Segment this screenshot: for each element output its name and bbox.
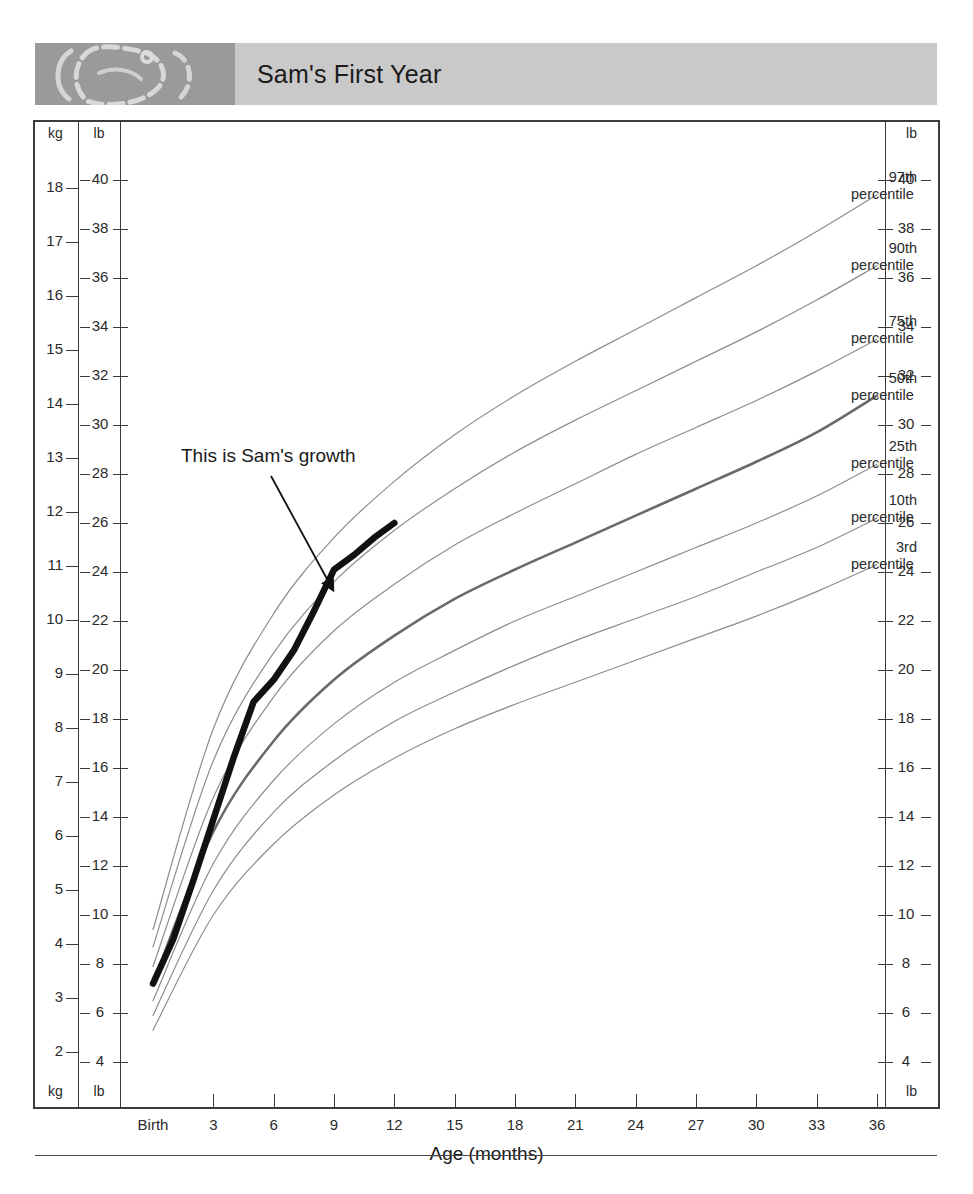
lb-tick-mark-right-outer bbox=[921, 964, 931, 965]
lb-tick-label-right: 22 bbox=[893, 611, 919, 628]
kg-tick-label: 10 bbox=[37, 610, 63, 627]
kg-tick-label: 14 bbox=[37, 394, 63, 411]
x-tick-mark bbox=[274, 1094, 275, 1108]
lb-tick-label: 20 bbox=[88, 660, 112, 677]
frame-bottom bbox=[33, 1107, 940, 1109]
left-lb-axis-footer: lb bbox=[78, 1083, 120, 1099]
lb-tick-label: 32 bbox=[88, 366, 112, 383]
percentile-curve bbox=[153, 339, 877, 966]
lb-tick-label-right: 18 bbox=[893, 709, 919, 726]
lb-tick-mark-right-outer bbox=[921, 474, 931, 475]
lb-tick-label: 10 bbox=[88, 905, 112, 922]
lb-tick-label: 34 bbox=[88, 317, 112, 334]
kg-tick-label: 15 bbox=[37, 340, 63, 357]
kg-tick-label: 2 bbox=[37, 1042, 63, 1059]
x-tick-mark bbox=[817, 1094, 818, 1108]
kg-tick-mark bbox=[66, 728, 78, 729]
lb-tick-label-right: 6 bbox=[893, 1003, 919, 1020]
lb-tick-label-right: 10 bbox=[893, 905, 919, 922]
percentile-word: percentile bbox=[851, 186, 941, 203]
percentile-word: percentile bbox=[851, 455, 941, 472]
kg-tick-mark bbox=[66, 620, 78, 621]
left-lb-axis-header: lb bbox=[78, 125, 120, 141]
page-title: Sam's First Year bbox=[257, 43, 441, 105]
x-tick-mark bbox=[213, 1094, 214, 1108]
kg-tick-mark bbox=[66, 1052, 78, 1053]
kg-tick-mark bbox=[66, 188, 78, 189]
left-kg-axis-footer: kg bbox=[33, 1083, 78, 1099]
kg-tick-mark bbox=[66, 296, 78, 297]
kg-tick-label: 17 bbox=[37, 232, 63, 249]
lb-tick-label: 22 bbox=[88, 611, 112, 628]
percentile-word: percentile bbox=[851, 257, 941, 274]
kg-tick-mark bbox=[66, 512, 78, 513]
lb-tick-label: 12 bbox=[88, 856, 112, 873]
right-lb-axis-footer: lb bbox=[885, 1083, 938, 1099]
lb-tick-mark-right-outer bbox=[921, 1013, 931, 1014]
kg-tick-mark bbox=[66, 944, 78, 945]
percentile-rank: 3rd bbox=[851, 539, 917, 556]
lb-tick-label-right: 4 bbox=[893, 1052, 919, 1069]
kg-tick-mark bbox=[66, 782, 78, 783]
growth-chart: kg lb lb kg lb lb 1817161514131211109876… bbox=[33, 120, 940, 1109]
kg-tick-mark bbox=[66, 458, 78, 459]
kg-tick-label: 9 bbox=[37, 664, 63, 681]
percentile-curve bbox=[153, 195, 877, 930]
lb-tick-mark-right-outer bbox=[921, 229, 931, 230]
plot-area bbox=[120, 120, 885, 1080]
kg-tick-mark bbox=[66, 242, 78, 243]
lb-tick-mark-right-outer bbox=[921, 866, 931, 867]
x-tick-mark bbox=[696, 1094, 697, 1108]
kg-tick-mark bbox=[66, 998, 78, 999]
percentile-label: 50thpercentile bbox=[851, 370, 941, 404]
percentile-curve bbox=[153, 565, 877, 1031]
percentile-rank: 97th bbox=[851, 169, 917, 186]
x-tick-mark bbox=[515, 1094, 516, 1108]
lb-tick-mark-right-outer bbox=[921, 719, 931, 720]
lb-tick-mark-right-outer bbox=[921, 1062, 931, 1063]
lb-tick-mark-right-outer bbox=[921, 278, 931, 279]
lb-tick-label: 36 bbox=[88, 268, 112, 285]
kg-tick-mark bbox=[66, 350, 78, 351]
banner-decorative-image bbox=[35, 43, 235, 105]
lb-tick-mark-right-outer bbox=[921, 670, 931, 671]
lb-tick-label: 40 bbox=[88, 170, 112, 187]
lb-tick-label-right: 8 bbox=[893, 954, 919, 971]
lb-tick-mark-right-outer bbox=[921, 621, 931, 622]
percentile-rank: 10th bbox=[851, 492, 917, 509]
kg-tick-label: 5 bbox=[37, 880, 63, 897]
right-lb-axis-header: lb bbox=[885, 125, 938, 141]
page-header-banner: Sam's First Year bbox=[35, 43, 937, 105]
percentile-rank: 50th bbox=[851, 370, 917, 387]
kg-tick-label: 8 bbox=[37, 718, 63, 735]
lb-tick-label-right: 38 bbox=[893, 219, 919, 236]
curves-svg bbox=[120, 120, 885, 1080]
percentile-word: percentile bbox=[851, 387, 941, 404]
percentile-label: 25thpercentile bbox=[851, 438, 941, 472]
percentile-label: 97thpercentile bbox=[851, 169, 941, 203]
kg-tick-label: 6 bbox=[37, 826, 63, 843]
kg-tick-label: 3 bbox=[37, 988, 63, 1005]
kg-tick-mark bbox=[66, 836, 78, 837]
lb-tick-label: 4 bbox=[88, 1052, 112, 1069]
footprint-graphic-icon bbox=[35, 43, 235, 105]
lb-tick-label: 38 bbox=[88, 219, 112, 236]
kg-tick-label: 13 bbox=[37, 448, 63, 465]
lb-tick-mark-right-outer bbox=[921, 915, 931, 916]
x-axis-title: Age (months) bbox=[33, 1143, 940, 1165]
left-kg-axis-header: kg bbox=[33, 125, 78, 141]
lb-tick-label: 26 bbox=[88, 513, 112, 530]
percentile-word: percentile bbox=[851, 556, 941, 573]
kg-tick-label: 16 bbox=[37, 286, 63, 303]
percentile-word: percentile bbox=[851, 509, 941, 526]
lb-tick-label-right: 14 bbox=[893, 807, 919, 824]
annotation-arrow-icon bbox=[263, 468, 393, 608]
kg-tick-mark bbox=[66, 674, 78, 675]
kg-tick-label: 4 bbox=[37, 934, 63, 951]
percentile-label: 90thpercentile bbox=[851, 240, 941, 274]
percentile-word: percentile bbox=[851, 330, 941, 347]
lb-tick-label: 24 bbox=[88, 562, 112, 579]
kg-tick-label: 12 bbox=[37, 502, 63, 519]
x-tick-mark bbox=[877, 1094, 878, 1108]
percentile-curve bbox=[153, 464, 877, 1001]
